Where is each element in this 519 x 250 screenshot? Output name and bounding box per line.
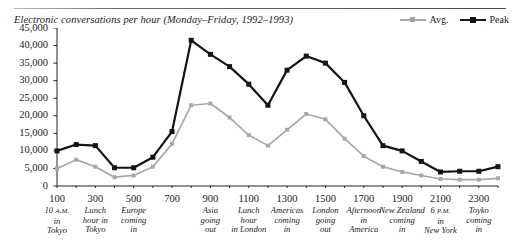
data-point: [342, 80, 347, 85]
y-tick-label: 25,000: [2, 93, 48, 103]
plot-area: [0, 28, 519, 188]
legend-peak-label: Peak: [490, 14, 509, 25]
data-point: [55, 148, 60, 153]
series-peak: [55, 38, 501, 175]
data-point: [112, 165, 117, 170]
data-point: [93, 165, 97, 169]
x-tick-label: 100: [37, 193, 77, 204]
data-point: [247, 133, 251, 137]
data-point: [362, 154, 366, 158]
data-point: [131, 165, 136, 170]
x-tick-label: 2300: [459, 193, 499, 204]
y-tick-label: 0: [2, 181, 48, 191]
legend-avg-swatch-icon: [400, 15, 426, 24]
data-point: [170, 142, 174, 146]
data-point: [266, 144, 270, 148]
data-point: [323, 61, 328, 66]
x-annotation: Europecomingin: [106, 206, 162, 235]
data-point: [419, 159, 424, 164]
data-point: [55, 166, 59, 170]
y-tick-label: 45,000: [2, 23, 48, 33]
data-point: [113, 175, 117, 179]
data-point: [438, 169, 443, 174]
data-point: [74, 158, 78, 162]
data-point: [246, 82, 251, 87]
x-tick-label: 1300: [267, 193, 307, 204]
legend-avg-label: Avg.: [430, 14, 449, 25]
data-point: [132, 173, 136, 177]
x-tick-label: 1100: [229, 193, 269, 204]
chart-title: Electronic conversations per hour (Monda…: [14, 14, 293, 25]
y-tick-label: 40,000: [2, 40, 48, 50]
data-point: [170, 129, 175, 134]
data-point: [189, 103, 193, 107]
data-point: [323, 117, 327, 121]
legend-item-peak: Peak: [460, 14, 509, 25]
data-point: [419, 173, 423, 177]
legend-item-avg: Avg.: [400, 14, 449, 25]
data-point: [304, 112, 308, 116]
data-point: [380, 143, 385, 148]
data-point: [304, 54, 309, 59]
x-tick-label: 2100: [420, 193, 460, 204]
data-point: [285, 68, 290, 73]
data-point: [381, 165, 385, 169]
data-point: [189, 38, 194, 43]
data-point: [228, 116, 232, 120]
x-annotation: Toykocomingin: [451, 206, 507, 235]
data-point: [227, 64, 232, 69]
chart-svg: [0, 28, 519, 188]
x-tick-label: 1500: [305, 193, 345, 204]
y-tick-label: 20,000: [2, 110, 48, 120]
data-point: [496, 176, 500, 180]
y-tick-label: 10,000: [2, 145, 48, 155]
data-point: [74, 142, 79, 147]
y-tick-label: 15,000: [2, 128, 48, 138]
x-tick-label: 500: [114, 193, 154, 204]
data-point: [457, 169, 462, 174]
top-divider: [14, 8, 506, 9]
data-point: [343, 137, 347, 141]
y-tick-label: 30,000: [2, 75, 48, 85]
series-avg: [55, 101, 500, 181]
data-point: [477, 178, 481, 182]
data-point: [496, 164, 501, 169]
chart-legend: Avg. Peak: [400, 14, 509, 25]
data-point: [285, 128, 289, 132]
data-point: [93, 143, 98, 148]
y-tick-label: 35,000: [2, 58, 48, 68]
data-point: [400, 148, 405, 153]
data-point: [476, 169, 481, 174]
data-point: [438, 177, 442, 181]
annotation-line: in: [106, 225, 162, 235]
legend-peak-swatch-icon: [460, 15, 486, 24]
data-point: [208, 101, 212, 105]
chart-figure: Electronic conversations per hour (Monda…: [0, 0, 519, 250]
x-tick-label: 700: [152, 193, 192, 204]
data-point: [265, 103, 270, 108]
annotation-line: in: [451, 225, 507, 235]
data-point: [361, 113, 366, 118]
data-point: [458, 178, 462, 182]
x-tick-label: 300: [75, 193, 115, 204]
data-point: [151, 165, 155, 169]
y-tick-label: 5,000: [2, 163, 48, 173]
data-point: [208, 52, 213, 57]
x-tick-label: 900: [190, 193, 230, 204]
x-tick-label: 1700: [344, 193, 384, 204]
data-point: [150, 155, 155, 160]
x-tick-label: 1900: [382, 193, 422, 204]
data-point: [400, 170, 404, 174]
